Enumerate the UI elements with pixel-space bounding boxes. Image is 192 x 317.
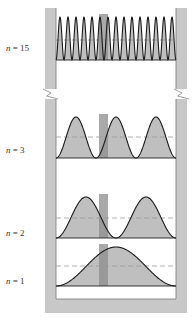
level-label-n3: n = 3 (6, 145, 25, 155)
left-wall (45, 8, 56, 313)
barrier-n1 (99, 244, 108, 286)
quantum-number-value: = 3 (11, 145, 25, 155)
bottom-wall (45, 299, 187, 313)
quantum-number-value: = 15 (11, 43, 30, 53)
right-wall (176, 8, 187, 313)
level-label-n1: n = 1 (6, 276, 25, 286)
quantum-number-value: = 1 (11, 276, 25, 286)
level-label-n15: n = 15 (6, 43, 29, 53)
probability-fill-n3 (56, 117, 176, 158)
level-label-n2: n = 2 (6, 228, 25, 238)
quantum-number-value: = 2 (11, 228, 25, 238)
